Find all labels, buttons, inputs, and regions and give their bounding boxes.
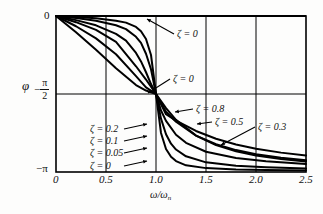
- x-tick-1p5: 1.5: [199, 174, 213, 185]
- x-axis-denominator: ω: [160, 189, 167, 200]
- fraction-numerator: π: [40, 78, 49, 90]
- x-tick-0: 0: [53, 174, 59, 185]
- x-tick-0p5: 0.5: [99, 174, 113, 185]
- annotation-zeta-0p2: ζ = 0.2: [90, 124, 118, 134]
- y-tick-minus-half-pi: −π2: [34, 78, 49, 101]
- annotation-zeta-0-bottom: ζ = 0: [90, 161, 111, 171]
- phase-angle-chart: φ 0 −π2 −π 0 0.5 1.0 1.5 2.0 2.5 ω/ωn ζ …: [0, 0, 323, 214]
- annotation-zeta-0-top: ζ = 0: [177, 29, 198, 39]
- fraction-denominator: 2: [40, 90, 49, 101]
- annotation-zeta-0p3: ζ = 0.3: [258, 122, 286, 132]
- y-tick-minus-pi: −π: [36, 163, 48, 174]
- y-axis-title: φ: [22, 79, 29, 92]
- annotation-zeta-0p05: ζ = 0.05: [90, 148, 123, 158]
- pi-over-2-fraction: π2: [40, 78, 49, 101]
- x-tick-2p0: 2.0: [249, 174, 263, 185]
- y-tick-0: 0: [44, 10, 50, 21]
- annotation-zeta-0p8: ζ = 0.8: [196, 104, 224, 114]
- x-axis-subscript: n: [168, 194, 172, 202]
- x-tick-2p5: 2.5: [299, 174, 313, 185]
- annotation-zeta-0p5: ζ = 0.5: [215, 117, 243, 127]
- x-tick-1p0: 1.0: [149, 174, 163, 185]
- annotation-zeta-0p1: ζ = 0.1: [90, 136, 118, 146]
- x-axis-title: ω/ωn: [150, 190, 171, 202]
- annotation-zeta-0-mid: ζ = 0: [173, 74, 194, 84]
